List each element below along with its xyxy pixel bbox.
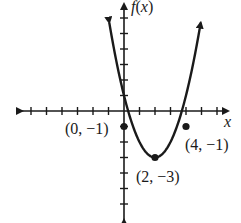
y-axis-label: f(x) [131, 0, 153, 16]
x-axis-label: x [223, 113, 231, 130]
data-points [120, 123, 189, 161]
point-label-2: (4, −1) [185, 136, 229, 154]
point-label-1: (2, −3) [136, 168, 180, 186]
data-point [182, 123, 189, 130]
point-label-0: (0, −1) [65, 120, 109, 138]
data-point [120, 123, 127, 130]
parabola-graph: x f(x) (0, −1) (2, −3) (4, −1) [0, 0, 241, 223]
data-point [151, 154, 158, 161]
